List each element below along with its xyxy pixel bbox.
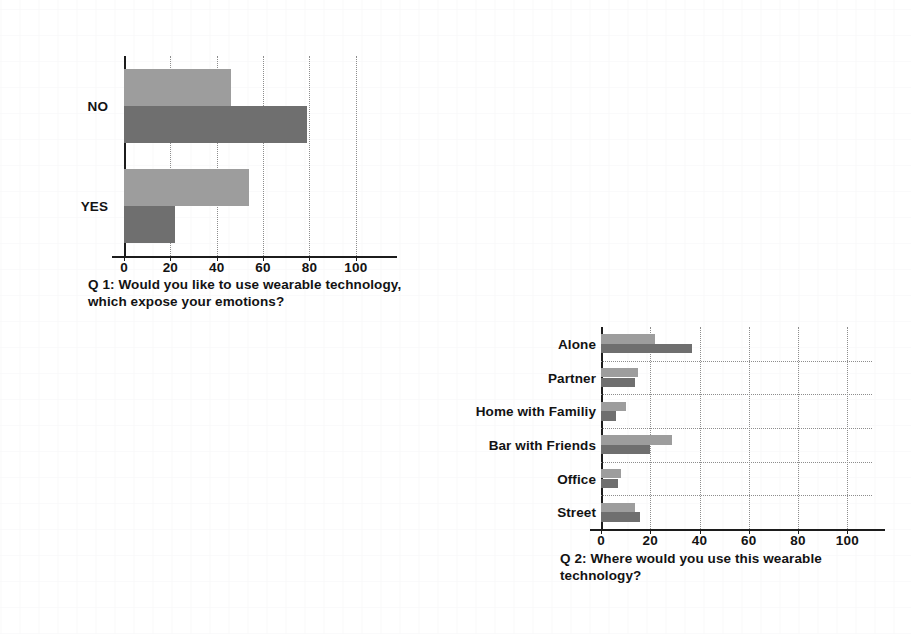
category-gridline	[601, 428, 872, 429]
caption-q1-line1: Q 1: Would you like to use wearable tech…	[88, 276, 428, 293]
category-label: Office	[557, 471, 596, 486]
bar-q1-0-dark	[124, 106, 307, 143]
bar-q2-2-light	[601, 402, 626, 411]
bar-q2-4-light	[601, 469, 621, 478]
bar-q2-1-light	[601, 368, 638, 377]
x-tick-label: 0	[120, 260, 128, 275]
x-tick-label: 20	[643, 533, 658, 548]
x-tick-label: 100	[836, 533, 859, 548]
bar-q2-0-dark	[601, 344, 692, 353]
category-label: Street	[557, 505, 596, 520]
x-tick-label: 20	[163, 260, 178, 275]
x-tick-label: 60	[255, 260, 270, 275]
x-tick-label: 80	[790, 533, 805, 548]
bar-q2-1-dark	[601, 378, 635, 387]
category-label: Alone	[558, 336, 596, 351]
x-gridline	[356, 56, 357, 256]
category-label: Partner	[548, 370, 596, 385]
figure-grid: Q 1: Would you like to use wearable tech…	[0, 0, 911, 634]
category-label: NO	[88, 99, 108, 114]
x-tick-label: 0	[597, 533, 605, 548]
caption-q2: Q 2: Where would you use this wearable t…	[560, 550, 890, 585]
x-tick-label: 100	[344, 260, 367, 275]
bar-q2-5-light	[601, 503, 635, 512]
x-gridline	[847, 327, 848, 529]
bar-q2-5-dark	[601, 512, 640, 521]
category-gridline	[601, 394, 872, 395]
caption-q1: Q 1: Would you like to use wearable tech…	[88, 276, 428, 311]
x-axis-q1	[112, 256, 397, 258]
chart-panel-q2: Q 2: Where would you use this wearable t…	[430, 310, 911, 600]
category-label: Home with Familiy	[476, 404, 596, 419]
x-tick-label: 60	[741, 533, 756, 548]
x-gridline	[700, 327, 701, 529]
x-axis-q2	[590, 529, 885, 531]
x-gridline	[263, 56, 264, 256]
caption-q2-line2: technology?	[560, 567, 890, 584]
category-gridline	[601, 361, 872, 362]
bar-q2-0-light	[601, 334, 655, 343]
bar-q1-0-light	[124, 69, 231, 106]
bar-q2-3-light	[601, 435, 672, 444]
category-label: YES	[81, 199, 108, 214]
x-gridline	[749, 327, 750, 529]
bar-q1-1-dark	[124, 206, 175, 243]
bar-q2-4-dark	[601, 479, 618, 488]
x-tick-label: 80	[302, 260, 317, 275]
bar-q2-3-dark	[601, 445, 650, 454]
bar-q1-1-light	[124, 169, 249, 206]
x-gridline	[309, 56, 310, 256]
category-label: Bar with Friends	[489, 437, 596, 452]
category-gridline	[601, 495, 872, 496]
category-gridline	[601, 462, 872, 463]
x-gridline	[798, 327, 799, 529]
x-tick-label: 40	[692, 533, 707, 548]
x-gridline	[650, 327, 651, 529]
caption-q2-line1: Q 2: Where would you use this wearable	[560, 550, 890, 567]
caption-q1-line2: which expose your emotions?	[88, 293, 428, 310]
bar-q2-2-dark	[601, 411, 616, 420]
x-tick-label: 40	[209, 260, 224, 275]
chart-panel-q1: Q 1: Would you like to use wearable tech…	[0, 20, 455, 310]
